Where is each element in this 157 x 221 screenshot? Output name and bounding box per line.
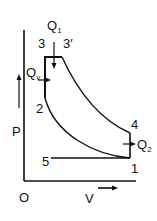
point-2-label: 2 — [36, 101, 43, 116]
y-axis-label: P — [12, 124, 21, 139]
point-5-label: 5 — [42, 154, 49, 169]
point-1-label: 1 — [131, 161, 138, 176]
q1-arrow-icon — [52, 42, 57, 69]
v-axis-arrow-icon — [98, 186, 118, 191]
origin-label: O — [19, 190, 29, 205]
pv-diagram: P V O Q1 Qv Q2 3 3′ 2 4 1 5 — [0, 0, 157, 221]
q2-label: Q2 — [137, 137, 152, 154]
point-3-prime-label: 3′ — [63, 36, 73, 51]
p-axis-arrow-icon — [17, 74, 22, 108]
point-4-label: 4 — [131, 117, 138, 132]
point-3-label: 3 — [38, 36, 45, 51]
qv-label: Qv — [26, 65, 40, 82]
expansion-curve — [62, 57, 130, 133]
x-axis-label: V — [85, 191, 94, 206]
q1-label: Q1 — [47, 18, 62, 35]
compression-curve — [45, 98, 130, 158]
